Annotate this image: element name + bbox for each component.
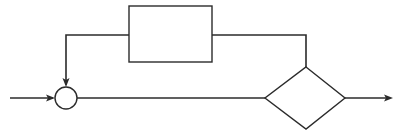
- output-arrow: [345, 95, 393, 102]
- decision-block: [265, 67, 345, 129]
- input-arrow: [10, 95, 55, 102]
- feedback-to-block: [212, 35, 306, 67]
- feedback-block: [129, 6, 212, 62]
- feedback-to-junction: [63, 35, 130, 87]
- block-diagram: [0, 0, 400, 136]
- summing-junction: [55, 87, 77, 109]
